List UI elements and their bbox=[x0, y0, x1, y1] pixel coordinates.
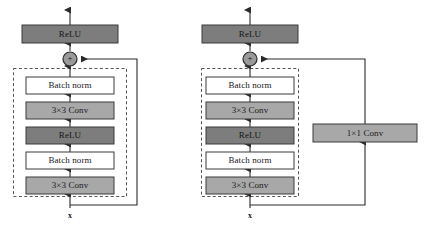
block-conv-2-left-label: 3×3 Conv bbox=[52, 105, 89, 115]
block-batchnorm-1-left-label: Batch norm bbox=[48, 155, 91, 165]
block-relu-inner-left-label: ReLU bbox=[59, 130, 82, 140]
projection-shortcut-lower-path-right bbox=[250, 142, 365, 205]
block-conv-1-left-label: 3×3 Conv bbox=[52, 180, 89, 190]
adder-node-left-label: + bbox=[67, 53, 72, 63]
panel-residual-block-identity-shortcut: ReLU Batch norm 3×3 Conv ReLU Batch norm… bbox=[14, 10, 138, 220]
block-output-relu-left-label: ReLU bbox=[59, 29, 82, 39]
block-conv-1-right-label: 3×3 Conv bbox=[232, 180, 269, 190]
panel-residual-block-projection-shortcut: ReLU Batch norm 3×3 Conv ReLU Batch norm… bbox=[202, 10, 418, 220]
block-output-relu-right-label: ReLU bbox=[239, 29, 262, 39]
adder-node-right-label: + bbox=[247, 53, 252, 63]
block-projection-conv-right-label: 1×1 Conv bbox=[347, 128, 384, 138]
block-relu-inner-right-label: ReLU bbox=[239, 130, 262, 140]
input-label-left: x bbox=[68, 211, 72, 220]
block-conv-2-right-label: 3×3 Conv bbox=[232, 105, 269, 115]
block-batchnorm-2-right-label: Batch norm bbox=[228, 80, 271, 90]
diagram-canvas: ReLU Batch norm 3×3 Conv ReLU Batch norm… bbox=[0, 0, 424, 225]
residual-block-diagram: ReLU Batch norm 3×3 Conv ReLU Batch norm… bbox=[0, 0, 424, 225]
input-label-right: x bbox=[248, 211, 252, 220]
block-batchnorm-2-left-label: Batch norm bbox=[48, 80, 91, 90]
block-batchnorm-1-right-label: Batch norm bbox=[228, 155, 271, 165]
